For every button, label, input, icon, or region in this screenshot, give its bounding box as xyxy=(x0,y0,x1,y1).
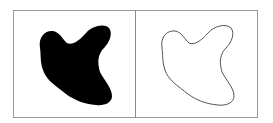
shapes-canvas xyxy=(0,0,273,123)
filled-blob xyxy=(40,26,112,106)
outline-blob xyxy=(162,26,234,106)
